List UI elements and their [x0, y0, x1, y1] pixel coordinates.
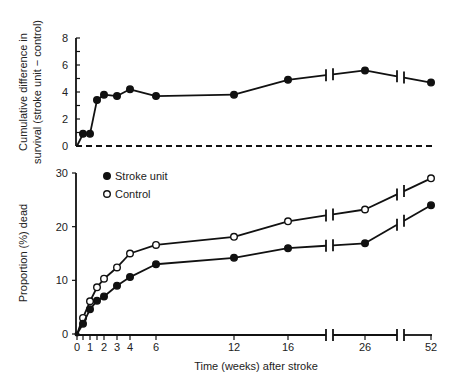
difference-data-point	[87, 131, 94, 138]
bottom-y-axis-title: Proportion (%) dead	[17, 204, 29, 302]
stroke-unit-survival-chart: 02468Cumulative difference insurvival (s…	[0, 0, 458, 386]
x-tick-label: 52	[425, 341, 437, 353]
top-y-tick-label: 0	[62, 140, 68, 152]
bottom-y-tick-label: 30	[56, 167, 68, 179]
difference-data-point	[101, 91, 108, 98]
stroke-unit-data-point	[80, 321, 87, 328]
stroke-unit-data-point	[114, 282, 121, 289]
origin-point	[75, 332, 80, 337]
top-y-tick-label: 4	[62, 86, 68, 98]
x-tick-label: 2	[101, 341, 107, 353]
control-data-point	[87, 298, 94, 305]
legend: Stroke unitControl	[104, 170, 168, 200]
control-data-point	[231, 234, 238, 241]
difference-data-point	[80, 131, 87, 138]
bottom-y-tick-label: 0	[62, 328, 68, 340]
control-data-point	[94, 284, 101, 291]
proportion-dead-panel: 0102030Proportion (%) dead01234612162652…	[17, 167, 437, 372]
x-tick-label: 6	[153, 341, 159, 353]
control-data-point	[428, 175, 435, 182]
x-tick-label: 26	[359, 341, 371, 353]
difference-data-point	[127, 86, 134, 93]
stroke-unit-data-point	[153, 261, 160, 268]
difference-panel: 02468Cumulative difference insurvival (s…	[17, 20, 434, 164]
stroke-unit-data-point	[231, 254, 238, 261]
control-data-point	[362, 206, 369, 213]
legend-control-label: Control	[115, 188, 150, 200]
bottom-y-tick-label: 20	[56, 221, 68, 233]
stroke-unit-data-point	[362, 240, 369, 247]
legend-stroke-unit-marker	[104, 173, 111, 180]
stroke-unit-data-point	[428, 202, 435, 209]
x-axis-title: Time (weeks) after stroke	[194, 360, 318, 372]
difference-data-point	[362, 67, 369, 74]
top-y-tick-label: 8	[62, 32, 68, 44]
difference-data-point	[94, 97, 101, 104]
stroke-unit-data-point	[127, 274, 134, 281]
difference-data-point	[285, 77, 292, 84]
top-y-tick-label: 6	[62, 59, 68, 71]
legend-control-marker	[104, 191, 111, 198]
stroke-unit-data-point	[101, 293, 108, 300]
difference-data-point	[428, 79, 435, 86]
difference-data-point	[114, 93, 121, 100]
x-tick-label: 12	[228, 341, 240, 353]
stroke-unit-data-point	[87, 306, 94, 313]
control-data-point	[114, 264, 121, 271]
x-tick-label: 3	[114, 341, 120, 353]
legend-stroke-unit-label: Stroke unit	[115, 170, 168, 182]
x-tick-label: 0	[74, 341, 80, 353]
control-data-point	[127, 250, 134, 257]
difference-data-point	[231, 91, 238, 98]
top-y-axis-title: Cumulative difference insurvival (stroke…	[17, 20, 43, 164]
control-data-point	[101, 275, 108, 282]
stroke-unit-data-point	[285, 245, 292, 252]
x-tick-label: 16	[282, 341, 294, 353]
top-y-tick-label: 2	[62, 113, 68, 125]
x-tick-label: 4	[127, 341, 133, 353]
control-data-point	[285, 218, 292, 225]
x-tick-label: 1	[87, 341, 93, 353]
control-data-point	[153, 242, 160, 249]
difference-data-point	[153, 93, 160, 100]
stroke-unit-data-point	[94, 297, 101, 304]
bottom-y-tick-label: 10	[56, 274, 68, 286]
